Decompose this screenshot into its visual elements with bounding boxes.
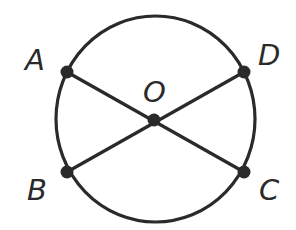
label-c: C <box>259 173 280 207</box>
label-b: B <box>27 173 47 207</box>
point-a <box>61 66 74 79</box>
label-d: D <box>258 38 280 72</box>
label-o: O <box>143 75 166 109</box>
label-a: A <box>23 43 45 77</box>
point-c <box>238 166 251 179</box>
point-b <box>61 166 74 179</box>
point-d <box>238 66 251 79</box>
point-o <box>148 114 161 127</box>
circle-diagram: A D O B C <box>0 0 296 230</box>
